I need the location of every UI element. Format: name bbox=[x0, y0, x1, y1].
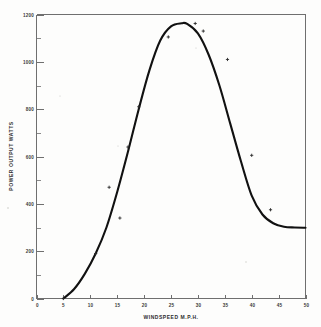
data-point-marker bbox=[194, 22, 197, 25]
y-tick-label: 800 bbox=[26, 107, 35, 112]
data-point-marker bbox=[226, 58, 229, 61]
x-tick-label: 35 bbox=[223, 303, 229, 308]
power-curve-chart: 020040060080010001200 051015202530354045… bbox=[0, 0, 321, 327]
data-point-marker bbox=[118, 216, 121, 219]
data-point-marker bbox=[202, 29, 205, 32]
data-point-marker bbox=[108, 186, 111, 189]
x-tick-label: 50 bbox=[304, 303, 310, 308]
x-axis-title: WINDSPEED M.P.H. bbox=[143, 314, 198, 320]
data-point-marker bbox=[167, 35, 170, 38]
y-axis-title: POWER OUTPUT WATTS bbox=[8, 121, 14, 190]
x-axis-ticks bbox=[38, 295, 307, 299]
x-tick-label: 20 bbox=[142, 303, 148, 308]
data-point-marker bbox=[269, 208, 272, 211]
x-tick-label: 45 bbox=[277, 303, 283, 308]
y-tick-label: 400 bbox=[26, 202, 35, 207]
data-point-marker bbox=[250, 154, 253, 157]
y-tick-label: 200 bbox=[26, 249, 35, 254]
y-axis-tick-labels: 020040060080010001200 bbox=[23, 13, 34, 302]
x-tick-label: 25 bbox=[169, 303, 175, 308]
x-tick-label: 40 bbox=[250, 303, 256, 308]
y-tick-label: 1200 bbox=[23, 13, 34, 18]
y-tick-label: 1000 bbox=[23, 60, 34, 65]
x-tick-label: 30 bbox=[196, 303, 202, 308]
chart-container: 020040060080010001200 051015202530354045… bbox=[0, 0, 321, 327]
y-tick-label: 0 bbox=[31, 297, 34, 302]
x-tick-label: 0 bbox=[36, 303, 39, 308]
y-axis-ticks bbox=[37, 16, 44, 300]
y-tick-label: 600 bbox=[26, 155, 35, 160]
power-output-curve bbox=[63, 23, 305, 299]
x-tick-label: 10 bbox=[88, 303, 94, 308]
chart-axes bbox=[37, 15, 306, 299]
x-axis-tick-labels: 05101520253035404550 bbox=[36, 303, 309, 308]
x-tick-label: 15 bbox=[115, 303, 121, 308]
x-tick-label: 5 bbox=[62, 303, 65, 308]
